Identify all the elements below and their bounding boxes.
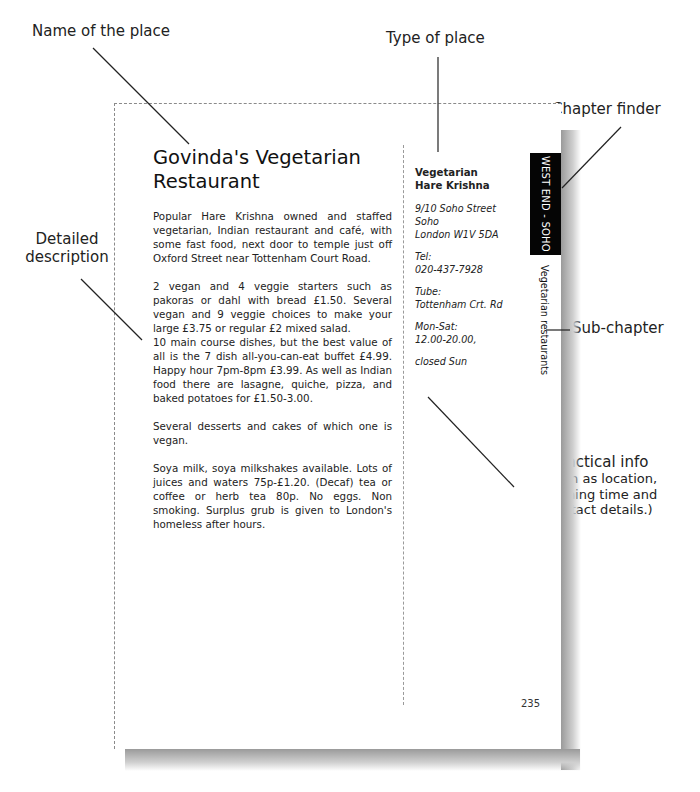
practical-info: Vegetarian Hare Krishna 9/10 Soho Street… — [415, 166, 525, 377]
address-line2: Soho — [415, 215, 525, 228]
annotation-name-of-place: Name of the place — [32, 22, 170, 40]
annotation-type-of-place: Type of place — [386, 29, 485, 47]
page-number: 235 — [521, 698, 540, 709]
tel-label: Tel: — [415, 250, 525, 263]
description-paragraph: 10 main course dishes, but the best valu… — [153, 335, 392, 405]
chapter-finder-tab: WEST END - SOHO — [530, 153, 561, 255]
annotation-detailed-description-line2: description — [22, 248, 112, 266]
place-type-line1: Vegetarian — [415, 166, 525, 179]
detailed-description: Popular Hare Krishna owned and staffed v… — [153, 209, 392, 545]
page-shadow-bottom — [125, 749, 580, 771]
annotation-sub-chapter: Sub-chapter — [572, 319, 664, 337]
annotation-detailed-description-line1: Detailed — [22, 230, 112, 248]
place-type-line2: Hare Krishna — [415, 179, 525, 192]
hours-value: 12.00-20.00, — [415, 333, 525, 346]
telephone: Tel: 020-437-7928 — [415, 250, 525, 276]
description-paragraph: Popular Hare Krishna owned and staffed v… — [153, 209, 392, 265]
place-title: Govinda's Vegetarian Restaurant — [153, 146, 393, 194]
address: 9/10 Soho Street Soho London W1V 5DA — [415, 202, 525, 241]
closed-day: closed Sun — [415, 355, 525, 368]
description-paragraph: 2 vegan and 4 veggie starters such as pa… — [153, 279, 392, 335]
subchapter-text: Vegetarian restaurants — [539, 265, 550, 375]
annotation-chapter-finder: Chapter finder — [552, 100, 661, 118]
place-type: Vegetarian Hare Krishna — [415, 166, 525, 192]
opening-hours: Mon-Sat: 12.00-20.00, — [415, 320, 525, 346]
subchapter-label: Vegetarian restaurants — [530, 262, 550, 378]
description-paragraph: Several desserts and cakes of which one … — [153, 419, 392, 447]
annotation-detailed-description: Detailed description — [22, 230, 112, 266]
tube-label: Tube: — [415, 285, 525, 298]
tel-value: 020-437-7928 — [415, 263, 525, 276]
column-divider — [403, 145, 404, 705]
tube: Tube: Tottenham Crt. Rd — [415, 285, 525, 311]
address-line3: London W1V 5DA — [415, 228, 525, 241]
description-paragraph: Soya milk, soya milkshakes available. Lo… — [153, 461, 392, 531]
tube-value: Tottenham Crt. Rd — [415, 298, 525, 311]
hours-label: Mon-Sat: — [415, 320, 525, 333]
page-shadow-right — [561, 130, 581, 770]
chapter-finder-label: WEST END - SOHO — [540, 156, 551, 252]
address-line1: 9/10 Soho Street — [415, 202, 525, 215]
